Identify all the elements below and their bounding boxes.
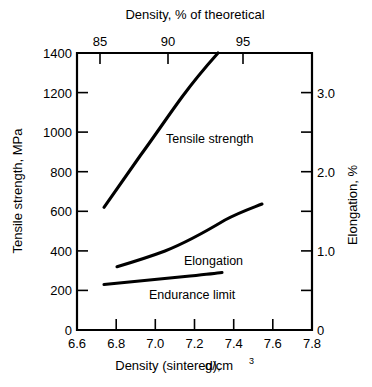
- left-tick-label: 1000: [43, 125, 72, 140]
- right-tick-label: 1.0: [317, 244, 335, 259]
- top-axis-tick-labels: 85 90 95: [93, 34, 250, 49]
- bottom-tick-label: 6.6: [68, 336, 86, 351]
- bottom-tick-label: 7.6: [264, 336, 282, 351]
- right-tick-label: 2.0: [317, 165, 335, 180]
- top-tick-label: 95: [236, 34, 250, 49]
- bottom-tick-label: 6.8: [107, 336, 125, 351]
- endurance-limit-curve: [104, 273, 222, 285]
- right-tick-label: 3.0: [317, 86, 335, 101]
- chart-canvas: Density, % of theoretical 85 90 95 0: [0, 0, 372, 387]
- left-tick-label: 1400: [43, 46, 72, 61]
- chart-figure: Density, % of theoretical 85 90 95 0: [0, 0, 372, 387]
- top-axis-title: Density, % of theoretical: [125, 7, 264, 22]
- top-axis-ticks: [100, 53, 243, 64]
- bottom-axis-tick-labels: 6.6 6.8 7.0 7.2 7.4 7.6 7.8: [68, 336, 321, 351]
- bottom-tick-label: 7.4: [225, 336, 243, 351]
- bottom-tick-label: 7.0: [146, 336, 164, 351]
- bottom-axis-title: Density (sintered), g/cm 3: [115, 356, 254, 373]
- bottom-axis-title-units: g/cm: [205, 358, 233, 373]
- bottom-axis-ticks: [116, 319, 273, 330]
- series-curves: [104, 53, 262, 285]
- bottom-tick-label: 7.2: [185, 336, 203, 351]
- elongation-label: Elongation: [184, 254, 243, 268]
- left-tick-label: 1200: [43, 86, 72, 101]
- left-tick-label: 600: [50, 204, 72, 219]
- left-axis-ticks: [77, 93, 88, 291]
- tensile-strength-label: Tensile strength: [166, 132, 254, 146]
- right-axis-tick-labels: 0 1.0 2.0 3.0: [317, 86, 335, 338]
- left-axis-title: Tensile strength, MPa: [10, 128, 25, 254]
- top-tick-label: 85: [93, 34, 107, 49]
- right-axis-title: Elongation, %: [345, 164, 360, 245]
- right-axis-ticks: [301, 93, 312, 291]
- left-tick-label: 200: [50, 283, 72, 298]
- left-axis-tick-labels: 0 200 400 600 800 1000 1200 1400: [43, 46, 72, 338]
- bottom-axis-title-units-superscript: 3: [249, 356, 254, 366]
- endurance-limit-label: Endurance limit: [149, 288, 236, 302]
- left-tick-label: 400: [50, 244, 72, 259]
- top-tick-label: 90: [161, 34, 175, 49]
- bottom-tick-label: 7.8: [303, 336, 321, 351]
- left-tick-label: 800: [50, 165, 72, 180]
- tensile-strength-curve: [104, 53, 218, 207]
